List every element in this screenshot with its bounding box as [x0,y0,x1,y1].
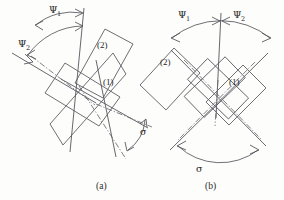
panel-a-dashdot-lower-right [96,104,152,127]
panel-a-domain-1-rect [50,53,126,145]
panel-b-psi2-label: Ψ 2 [233,9,245,23]
panel-b-psi1-arrowhead-left [171,33,180,42]
panel-b-domain-1-label: (1) [229,77,240,87]
panel-a-sigma-label: σ [140,126,147,137]
figure-root: (2) (1) Ψ 1 Ψ 2 σ (a) [0,0,284,200]
panel-b-domain-2-label: (2) [160,57,171,67]
svg-text:1: 1 [57,10,61,18]
svg-text:1: 1 [186,15,190,23]
panel-b: (2) (1) Ψ 1 Ψ 2 σ (b) [140,9,271,192]
panel-b-psi-arc [172,21,270,38]
panel-b-sigma-label: σ [196,163,203,174]
panel-a-axis-upper-left [12,53,96,103]
panel-a-psi2-label: Ψ 2 [18,38,30,52]
panel-b-psi1-label: Ψ 1 [178,9,190,23]
panel-a: (2) (1) Ψ 1 Ψ 2 σ (a) [12,4,152,192]
svg-text:2: 2 [241,15,245,23]
panel-b-sigma-arc [178,146,258,163]
panel-b-axis-right-diagonal [170,53,268,150]
panel-a-psi2-arc [28,26,82,55]
panel-a-caption: (a) [96,181,107,192]
panel-a-dashdot-steep [79,86,126,159]
panel-a-domain-2-label: (2) [97,40,108,50]
panel-a-domain-1-label: (1) [103,77,114,87]
svg-text:2: 2 [26,44,30,52]
panel-b-caption: (b) [205,181,216,192]
panel-b-psi2-arrowhead-right [262,33,271,42]
twin-orientation-diagram: (2) (1) Ψ 1 Ψ 2 σ (a) [0,0,284,200]
